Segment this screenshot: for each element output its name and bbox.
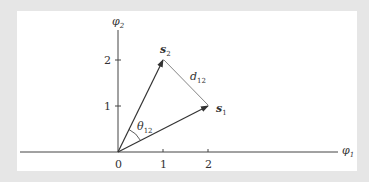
- vector-diagram: 0 1 2 1 2 φ1 φ2 s1 s2 d12 θ12: [0, 0, 369, 182]
- x-tick-label-2: 2: [205, 158, 212, 171]
- x-tick-label-0: 0: [115, 158, 122, 171]
- x-axis-label: φ1: [342, 144, 354, 159]
- angle-label-theta12: θ12: [137, 120, 153, 135]
- vector-label-s2: s2: [160, 43, 171, 58]
- distance-label-d12: d12: [190, 70, 206, 85]
- y-tick-label-2: 2: [104, 54, 111, 67]
- y-axis-label: φ2: [112, 15, 125, 30]
- vector-s1: [118, 106, 208, 152]
- vector-label-s1: s1: [216, 102, 227, 117]
- vector-s2: [118, 60, 163, 152]
- y-tick-label-1: 1: [104, 100, 111, 113]
- x-tick-label-1: 1: [160, 158, 167, 171]
